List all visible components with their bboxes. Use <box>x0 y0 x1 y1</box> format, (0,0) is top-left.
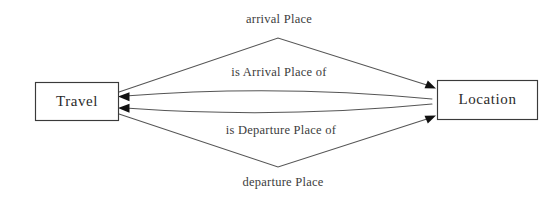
relation-label-is-arrival-place-of: is Arrival Place of <box>231 65 327 79</box>
entity-travel-label: Travel <box>56 93 98 109</box>
relation-label-is-departure-place-of: is Departure Place of <box>226 123 337 137</box>
relation-is-departure-place-of[interactable] <box>118 104 432 113</box>
diagram-canvas: Travel Location arrival Place is Arrival… <box>0 0 559 204</box>
relation-is-arrival-place-of-arrowhead <box>118 92 130 101</box>
relation-is-arrival-place-of-line <box>125 91 432 99</box>
relation-label-arrival-place: arrival Place <box>246 12 312 26</box>
entity-location[interactable]: Location <box>438 81 538 120</box>
relation-label-departure-place: departure Place <box>242 175 323 189</box>
relation-departure-place-arrowhead <box>425 116 437 124</box>
relation-is-arrival-place-of[interactable] <box>118 91 432 102</box>
relation-is-departure-place-of-line <box>125 104 432 113</box>
relation-arrival-place-arrowhead <box>425 81 437 89</box>
entity-location-label: Location <box>458 91 516 107</box>
relationship-diagram: Travel Location arrival Place is Arrival… <box>0 0 559 204</box>
entity-travel[interactable]: Travel <box>36 83 119 121</box>
relation-is-departure-place-of-arrowhead <box>118 104 130 113</box>
